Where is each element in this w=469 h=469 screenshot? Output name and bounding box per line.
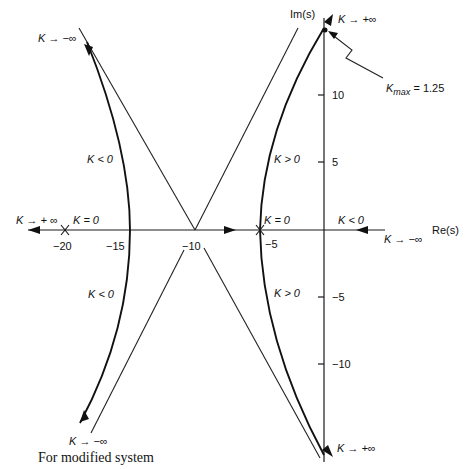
left-lower-region-label: K < 0 — [88, 288, 115, 300]
locus-branches — [80, 14, 333, 457]
figure-caption: For modified system — [38, 450, 154, 465]
kmax-leader-line — [330, 33, 383, 78]
asymptote-upper-left — [79, 28, 195, 230]
right-lower-region-label: K > 0 — [274, 287, 301, 299]
left-axis-limit-label: K → + ∞ — [16, 214, 58, 226]
right-axis-left-arrow-icon — [356, 226, 368, 234]
right-upper-region-label: K > 0 — [274, 153, 301, 165]
real-axis-label: Re(s) — [432, 224, 459, 236]
left-upper-region-label: K < 0 — [87, 153, 114, 165]
pole-right-k0-label: K = 0 — [264, 214, 291, 226]
imag-axis-label: Im(s) — [290, 8, 315, 20]
top-right-limit-label: K → +∞ — [338, 13, 377, 25]
xtick-label-minus5: −5 — [265, 238, 278, 250]
top-left-limit-label: K → −∞ — [38, 32, 77, 44]
upper-right-branch-arrow-icon — [324, 14, 333, 26]
pole-left-k0-label: K = 0 — [73, 214, 100, 226]
axes — [28, 18, 385, 462]
kmax-point — [323, 28, 328, 33]
ytick-label-10: 10 — [332, 89, 344, 101]
kmax-label: Kmax = 1.25 — [386, 82, 444, 97]
right-axis-region-label: K < 0 — [338, 214, 365, 226]
asymptote-upper-right — [195, 28, 298, 230]
ytick-label-5: 5 — [332, 156, 338, 168]
ytick-label-minus10: −10 — [332, 358, 351, 370]
kmax-pointer — [328, 31, 383, 78]
xtick-label-minus10: −10 — [182, 240, 201, 252]
left-axis-arrow-icon — [28, 226, 40, 234]
bottom-right-limit-label: K → +∞ — [337, 442, 376, 454]
centroid-right-arrow-icon — [224, 226, 236, 234]
left-branch — [80, 42, 130, 423]
xtick-label-minus15: −15 — [106, 240, 125, 252]
asymptote-lower-right — [204, 248, 320, 458]
lower-left-branch-arrow-icon — [80, 410, 89, 422]
right-axis-limit-label: K → −∞ — [384, 233, 423, 245]
xtick-label-minus20: −20 — [53, 240, 72, 252]
bottom-left-limit-label: K → −∞ — [69, 435, 108, 447]
asymptote-lower-left — [91, 250, 184, 433]
root-locus-plot: Im(s) Re(s) −20 −15 −10 −5 10 5 −5 −10 K… — [0, 0, 469, 469]
ytick-label-minus5: −5 — [332, 291, 345, 303]
